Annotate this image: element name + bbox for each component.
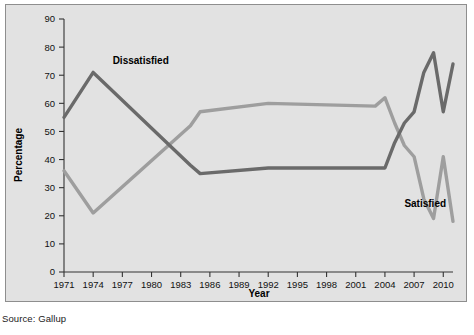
x-axis-tick-label: 1974 bbox=[83, 279, 104, 290]
x-axis-tick-label: 1995 bbox=[287, 279, 308, 290]
series-label-satisfied: Satisfied bbox=[404, 198, 446, 209]
x-axis-tick-label: 1998 bbox=[316, 279, 337, 290]
y-axis-tick-label: 0 bbox=[50, 266, 55, 277]
source-note: Source: Gallup bbox=[2, 313, 66, 324]
x-axis-tick-label: 2004 bbox=[374, 279, 395, 290]
figure-container: 0102030405060708090 19711974197719801983… bbox=[0, 0, 474, 335]
x-axis-tick-label: 2010 bbox=[433, 279, 454, 290]
line-chart-svg: 0102030405060708090 19711974197719801983… bbox=[6, 5, 466, 301]
y-axis-ticks: 0102030405060708090 bbox=[44, 13, 64, 277]
x-axis-tick-label: 1980 bbox=[141, 279, 162, 290]
series-line-satisfied bbox=[64, 98, 453, 222]
y-axis-tick-label: 70 bbox=[44, 70, 55, 81]
y-axis-tick-label: 50 bbox=[44, 126, 55, 137]
x-axis-tick-label: 1989 bbox=[228, 279, 249, 290]
y-axis-tick-label: 90 bbox=[44, 13, 55, 24]
x-axis-tick-label: 1986 bbox=[199, 279, 220, 290]
x-axis-tick-label: 2001 bbox=[345, 279, 366, 290]
y-axis-tick-label: 40 bbox=[44, 154, 55, 165]
x-axis-title: Year bbox=[248, 288, 269, 299]
series-line-dissatisfied bbox=[64, 53, 453, 174]
y-axis-title: Percentage bbox=[13, 128, 24, 182]
x-axis-tick-label: 2007 bbox=[404, 279, 425, 290]
y-axis-tick-label: 30 bbox=[44, 182, 55, 193]
y-axis-tick-label: 60 bbox=[44, 98, 55, 109]
x-axis-tick-label: 1977 bbox=[112, 279, 133, 290]
y-axis-tick-label: 10 bbox=[44, 238, 55, 249]
series-label-dissatisfied: Dissatisfied bbox=[113, 55, 169, 66]
x-axis-tick-label: 1983 bbox=[170, 279, 191, 290]
y-axis-tick-label: 80 bbox=[44, 42, 55, 53]
x-axis-tick-label: 1971 bbox=[53, 279, 74, 290]
chart-plot-frame: 0102030405060708090 19711974197719801983… bbox=[5, 4, 467, 302]
y-axis-tick-label: 20 bbox=[44, 210, 55, 221]
